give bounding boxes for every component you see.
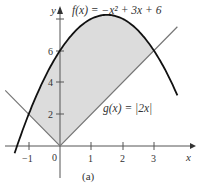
x-tick-label-1: 1 [88, 153, 93, 164]
y-tick-label-6: 6 [48, 46, 53, 57]
chart-svg: −1 0 1 2 3 2 4 6 x y f(x) = −x² + 3x + 6… [0, 0, 198, 188]
y-tick-label-2: 2 [48, 109, 53, 120]
x-axis-arrow-icon [190, 143, 196, 149]
x-tick-label-3: 3 [151, 153, 156, 164]
caption: (a) [82, 170, 95, 183]
x-tick-label-2: 2 [120, 153, 125, 164]
y-axis-label: y [50, 4, 56, 16]
figure: −1 0 1 2 3 2 4 6 x y f(x) = −x² + 3x + 6… [0, 0, 198, 188]
x-tick-label-0: 0 [52, 152, 57, 163]
x-tick-label-neg1: −1 [22, 153, 33, 164]
y-tick-label-4: 4 [48, 77, 53, 88]
f-label: f(x) = −x² + 3x + 6 [72, 4, 162, 17]
g-label: g(x) = |2x| [103, 102, 152, 115]
y-axis-arrow-icon [57, 6, 63, 14]
x-axis-label: x [185, 151, 191, 163]
